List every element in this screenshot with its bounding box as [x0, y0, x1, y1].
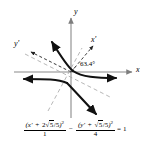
y-axis-label: y [74, 8, 78, 16]
minus-operator: − [68, 126, 74, 133]
right-fraction: (y' + √5/5)2 4 [76, 120, 115, 138]
right-exponent: 2 [111, 120, 114, 125]
rotation-angle-label: 63.4° [80, 61, 95, 68]
curve-branch-left [24, 79, 67, 83]
curve-branch-upper-left [52, 42, 73, 71]
left-plus: + [34, 121, 40, 129]
x-axis-label: x [136, 66, 140, 74]
left-fraction: (x' + 2√5/5)2 1 [24, 120, 67, 138]
right-denominator: 4 [92, 131, 100, 139]
right-numerator: (y' + √5/5)2 [76, 120, 115, 130]
left-denominator: 1 [41, 131, 49, 139]
conic-equation: (x' + 2√5/5)2 1 − (y' + √5/5)2 4 = 1 [0, 120, 150, 138]
right-plus: + [87, 121, 93, 129]
left-exponent: 2 [62, 120, 65, 125]
y-prime-axis-label: y' [14, 40, 19, 48]
right-variable: y' [80, 121, 85, 129]
left-variable: x' [28, 121, 33, 129]
left-numerator: (x' + 2√5/5)2 [24, 120, 67, 130]
x-prime-axis-label: x' [91, 36, 96, 44]
right-hand-side: 1 [123, 126, 127, 133]
equals-sign: = [117, 126, 121, 133]
asymptote-1 [25, 54, 110, 97]
hyperbola-figure: y x x' y' 63.4° (x' + 2√5/5)2 1 − (y' + … [0, 0, 150, 149]
equation-row: (x' + 2√5/5)2 1 − (y' + √5/5)2 4 = 1 [24, 120, 127, 138]
